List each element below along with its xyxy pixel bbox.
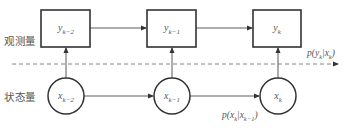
transition-probability-label: p(xk|xk−1) xyxy=(222,110,258,122)
observation-label-1: yk−2 xyxy=(58,22,74,36)
state-layer-label: 状态量 xyxy=(4,89,36,104)
observation-label-3: yk xyxy=(273,22,281,36)
emission-probability-label: p(yk|xk) xyxy=(307,48,335,60)
observation-layer-label: 观测量 xyxy=(4,33,36,48)
hmm-diagram xyxy=(0,0,345,131)
state-label-3: xk xyxy=(274,90,282,104)
state-label-1: xk−2 xyxy=(58,90,74,104)
observation-label-2: yk−1 xyxy=(164,22,180,36)
state-label-2: xk−1 xyxy=(164,90,180,104)
